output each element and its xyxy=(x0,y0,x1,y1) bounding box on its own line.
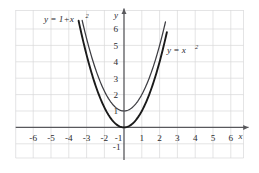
x-tick-6: 6 xyxy=(229,133,234,143)
plot-background xyxy=(0,0,259,173)
x-tick-minus-2: -2 xyxy=(101,133,109,143)
y-tick-3: 3 xyxy=(113,74,118,84)
y-tick-minus-1: -1 xyxy=(113,142,121,152)
x-tick-2: 2 xyxy=(157,133,162,143)
y-axis-label: y xyxy=(113,10,118,20)
x-tick-5: 5 xyxy=(211,133,216,143)
y-tick-5: 5 xyxy=(113,41,118,51)
x-axis-label: x xyxy=(238,131,243,141)
y-tick-4: 4 xyxy=(113,57,118,67)
label-1-plus-x-squared-base: y = 1+x xyxy=(43,14,75,24)
x-tick-4: 4 xyxy=(193,133,198,143)
x-tick-minus-5: -5 xyxy=(47,133,55,143)
y-tick-6: 6 xyxy=(113,24,118,34)
x-tick-1: 1 xyxy=(140,133,145,143)
x-tick-minus-3: -3 xyxy=(83,133,91,143)
y-tick-2: 2 xyxy=(113,90,118,100)
label-x-squared-base: y = x xyxy=(166,45,187,55)
x-tick-3: 3 xyxy=(175,133,180,143)
y-tick-1: 1 xyxy=(113,106,118,116)
x-tick-minus-4: -4 xyxy=(65,133,73,143)
coordinate-plot: -6 -5 -4 -3 -2 -1 1 2 3 4 5 6 6 5 4 3 2 … xyxy=(0,0,259,173)
x-tick-minus-1: -1 xyxy=(115,133,123,143)
x-tick-minus-6: -6 xyxy=(29,133,37,143)
graph-figure: -6 -5 -4 -3 -2 -1 1 2 3 4 5 6 6 5 4 3 2 … xyxy=(0,0,259,173)
